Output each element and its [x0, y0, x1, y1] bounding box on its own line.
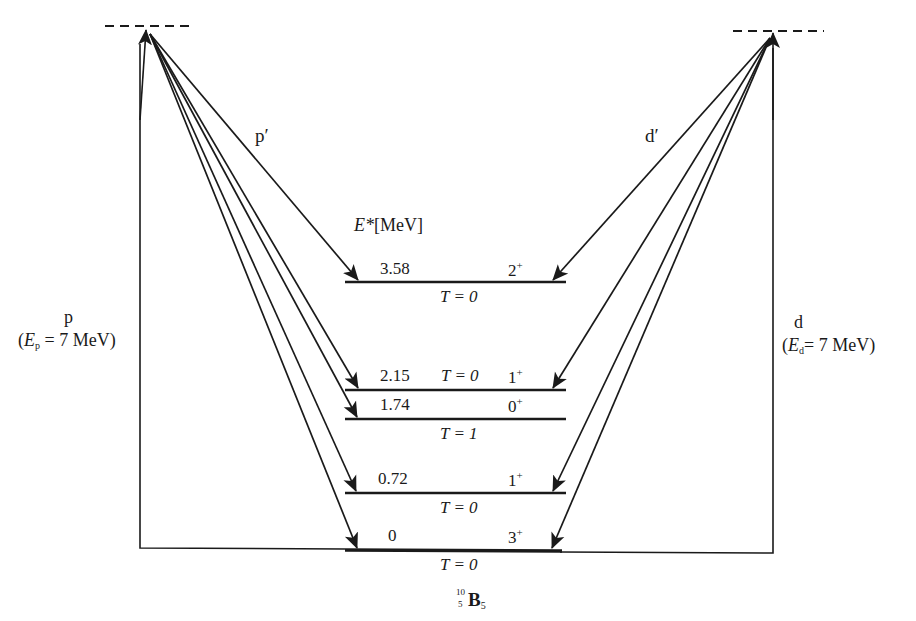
deuteron-incoming-path [560, 48, 773, 553]
spin-value: 2 [508, 261, 517, 280]
level-isospin-0: T = 0 [440, 556, 478, 573]
level-energy-2.15: 2.15 [380, 367, 410, 384]
level-spin-0: 3+ [508, 527, 523, 546]
proton-label: p [64, 308, 73, 326]
proton-energy-label: (Ep = 7 MeV) [18, 331, 116, 351]
p-prime-arrow-1.74 [150, 34, 357, 417]
energy-value: = 7 MeV [804, 335, 869, 355]
level-spin-3.58: 2+ [508, 260, 523, 279]
level-energy-1.74: 1.74 [380, 396, 410, 413]
level-spin-0.72: 1+ [508, 470, 523, 489]
d-prime-arrow-3.58 [553, 38, 770, 280]
p-prime-transitions [150, 34, 358, 548]
level-energy-0.72: 0.72 [378, 470, 408, 487]
energy-symbol: E [788, 335, 799, 355]
p-prime-arrow-2.15 [150, 34, 358, 388]
spin-value: 0 [508, 397, 517, 416]
level-energy-3.58: 3.58 [380, 260, 410, 277]
energy-subscript: p [35, 340, 40, 351]
proton-incoming-path [140, 44, 345, 549]
mass-number: 10 [456, 588, 465, 597]
proton-incoming-arrow [140, 30, 146, 120]
energy-level-diagram [0, 0, 916, 621]
level-spin-2.15: 1+ [508, 367, 523, 386]
energy-symbol: E* [354, 215, 374, 235]
deuteron-label: d [794, 313, 803, 331]
p-prime-arrow-0.72 [150, 34, 356, 491]
level-isospin-2.15: T = 0 [441, 367, 479, 384]
parity-value: + [517, 395, 523, 407]
energy-value: = 7 MeV [45, 330, 110, 350]
level-spin-1.74: 0+ [508, 396, 523, 415]
parity-value: + [517, 259, 523, 271]
d-prime-arrow-2.15 [553, 38, 770, 388]
parity-value: + [517, 366, 523, 378]
nucleus-indices: 10 5 [458, 590, 468, 608]
d-prime-arrow-0 [552, 38, 770, 548]
energy-axis-label: E*[MeV] [354, 216, 423, 234]
parity-value: + [517, 526, 523, 538]
d-prime-arrow-0.72 [553, 38, 770, 491]
p-prime-arrow-0 [150, 34, 357, 548]
nucleus-label: 10 5 B5 [458, 590, 486, 611]
spin-value: 1 [508, 368, 517, 387]
parity-value: + [517, 469, 523, 481]
p-prime-arrow-3.58 [150, 34, 358, 280]
level-isospin-3.58: T = 0 [440, 288, 478, 305]
element-symbol: B [468, 589, 481, 610]
deuteron-energy-label: (Ed= 7 MeV) [782, 336, 875, 356]
energy-unit: [MeV] [374, 215, 423, 235]
level-0-ground [345, 550, 562, 551]
level-isospin-0.72: T = 0 [440, 499, 478, 516]
level-isospin-1.74: T = 1 [440, 425, 478, 442]
d-prime-label: d′ [645, 126, 659, 145]
spin-value: 1 [508, 471, 517, 490]
atomic-number: 5 [458, 600, 463, 609]
level-energy-0: 0 [388, 527, 397, 544]
energy-symbol: E [24, 330, 35, 350]
spin-value: 3 [508, 528, 517, 547]
neutron-number: 5 [481, 600, 486, 611]
d-prime-transitions [552, 38, 770, 548]
p-prime-label: p′ [255, 126, 269, 145]
